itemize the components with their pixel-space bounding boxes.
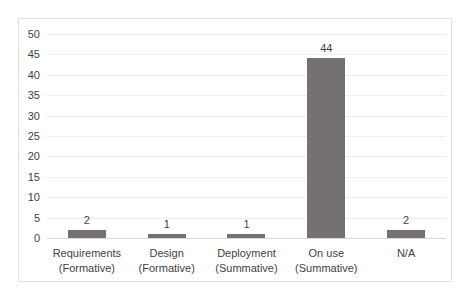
y-axis-tick-label: 10 xyxy=(28,192,40,203)
bar[interactable] xyxy=(68,230,106,238)
bar[interactable] xyxy=(148,234,186,238)
y-axis-tick-label: 50 xyxy=(28,29,40,40)
bar-group: 2Requirements(Formative) xyxy=(47,34,127,238)
bar[interactable] xyxy=(307,58,345,238)
category-label-line-2: (Formative) xyxy=(53,261,121,276)
chart-frame: 051015202530354045502Requirements(Format… xyxy=(18,18,452,282)
bar-group: 44On use(Summative) xyxy=(286,34,366,238)
bar-value-label: 2 xyxy=(84,215,90,226)
category-label-line-2: (Summative) xyxy=(295,261,357,276)
category-label-line-1: Design xyxy=(150,247,184,259)
bar-group: 1Deployment(Summative) xyxy=(207,34,287,238)
bar-group: 2N/A xyxy=(366,34,446,238)
x-axis-category-label: Requirements(Formative) xyxy=(53,246,121,276)
x-axis-category-label: Design(Formative) xyxy=(139,246,195,276)
y-axis-tick-label: 20 xyxy=(28,151,40,162)
plot-area: 051015202530354045502Requirements(Format… xyxy=(47,34,446,238)
y-axis-tick-label: 45 xyxy=(28,49,40,60)
y-axis-tick-label: 40 xyxy=(28,69,40,80)
x-axis-category-label: On use(Summative) xyxy=(295,246,357,276)
category-label-line-2: (Summative) xyxy=(215,261,277,276)
y-axis-tick-label: 35 xyxy=(28,90,40,101)
bar-value-label: 1 xyxy=(164,219,170,230)
category-label-line-1: N/A xyxy=(397,247,415,259)
category-label-line-1: On use xyxy=(309,247,344,259)
bar-value-label: 1 xyxy=(243,219,249,230)
y-axis-tick-label: 25 xyxy=(28,131,40,142)
bar-group: 1Design(Formative) xyxy=(127,34,207,238)
y-axis-tick-label: 0 xyxy=(34,233,40,244)
x-axis-line: 0 xyxy=(47,238,446,239)
category-label-line-1: Requirements xyxy=(53,247,121,259)
x-axis-category-label: Deployment(Summative) xyxy=(215,246,277,276)
category-label-line-1: Deployment xyxy=(217,247,276,259)
bar-value-label: 44 xyxy=(320,43,332,54)
x-axis-category-label: N/A xyxy=(397,246,415,261)
y-axis-tick-label: 15 xyxy=(28,171,40,182)
bar[interactable] xyxy=(387,230,425,238)
y-axis-tick-label: 5 xyxy=(34,212,40,223)
bar[interactable] xyxy=(227,234,265,238)
category-label-line-2: (Formative) xyxy=(139,261,195,276)
y-axis-tick-label: 30 xyxy=(28,110,40,121)
bar-value-label: 2 xyxy=(403,215,409,226)
